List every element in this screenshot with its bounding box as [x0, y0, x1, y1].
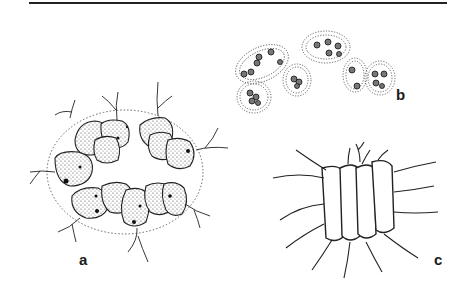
- figure-canvas: [0, 0, 465, 288]
- panel-label-b: b: [396, 86, 405, 103]
- panel-label-c: c: [434, 251, 442, 268]
- panel-b-cells: [241, 39, 387, 106]
- panel-c-chain: [273, 142, 438, 278]
- panel-label-a: a: [79, 251, 87, 268]
- panel-a-colony: [30, 82, 228, 262]
